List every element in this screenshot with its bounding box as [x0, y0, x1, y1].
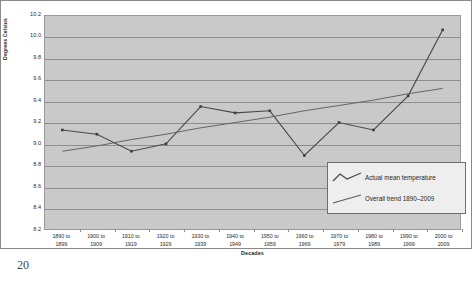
y-axis-tick-label: 8.6 [17, 184, 41, 190]
data-point-marker [441, 28, 444, 31]
y-axis-tick-label: 10.2 [17, 12, 41, 18]
y-axis-tick-label: 9.8 [17, 55, 41, 61]
page-number: 20 [17, 258, 29, 273]
y-axis-tick-label: 9.6 [17, 76, 41, 82]
data-point-marker [338, 121, 341, 124]
data-point-marker [61, 128, 64, 131]
y-axis-tick-label: 9.0 [17, 141, 41, 147]
y-axis-tick-labels: 10.210.09.89.69.49.29.08.88.68.48.2 [17, 11, 43, 231]
data-point-marker [372, 128, 375, 131]
legend-label-actual: Actual mean temperature [365, 174, 436, 181]
y-axis-tick-label: 10.0 [17, 33, 41, 39]
y-axis-title: Degrees Celsius [2, 0, 12, 89]
y-axis-tick-label: 9.4 [17, 98, 41, 104]
data-point-marker [268, 109, 271, 112]
x-axis-tick-label: 2000 to2009 [424, 232, 464, 249]
legend-item-trend: Overall trend 1890–2009 [332, 188, 461, 209]
data-point-marker [165, 142, 168, 145]
y-axis-tick-label: 8.2 [17, 227, 41, 233]
y-axis-tick-label: 8.4 [17, 205, 41, 211]
data-point-marker [96, 132, 99, 135]
data-point-marker [234, 111, 237, 114]
chart-legend: Actual mean temperature Overall trend 18… [327, 162, 466, 214]
legend-item-actual: Actual mean temperature [332, 167, 461, 188]
y-axis-tick-label: 8.8 [17, 162, 41, 168]
straight-line-icon [332, 192, 362, 206]
x-axis-title: Decades [44, 250, 461, 256]
y-axis-tick-label: 9.2 [17, 119, 41, 125]
legend-label-trend: Overall trend 1890–2009 [365, 195, 434, 202]
series-line-trend [62, 88, 442, 151]
zigzag-line-icon [332, 171, 362, 185]
chart-figure: Degrees Celsius 10.210.09.89.69.49.29.08… [0, 0, 472, 249]
data-point-marker [407, 94, 410, 97]
data-point-marker [199, 105, 202, 108]
data-point-marker [130, 149, 133, 152]
data-point-marker [303, 154, 306, 157]
series-line-actual [62, 29, 442, 155]
